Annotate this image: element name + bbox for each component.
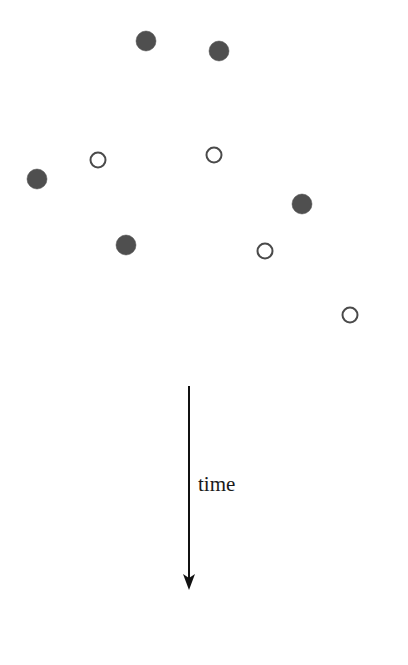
filled-circle-marker-2 — [209, 41, 229, 61]
open-circle-marker-4 — [343, 308, 358, 323]
filled-circle-marker-1 — [136, 31, 156, 51]
open-circle-marker-3 — [258, 244, 273, 259]
filled-circle-marker-5 — [116, 235, 136, 255]
figure-background — [0, 0, 408, 665]
filled-circle-marker-3 — [27, 169, 47, 189]
figure-canvas: time — [0, 0, 408, 665]
filled-circle-marker-4 — [292, 194, 312, 214]
open-circle-marker-2 — [207, 148, 222, 163]
scatter-diagram: time — [0, 0, 408, 665]
open-circle-marker-1 — [91, 153, 106, 168]
time-axis-label: time — [198, 472, 235, 496]
